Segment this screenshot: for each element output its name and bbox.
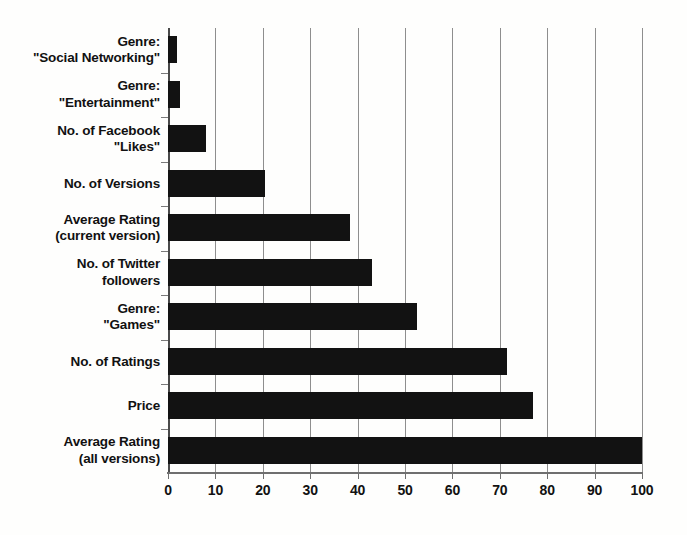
plot-area [168, 28, 642, 473]
x-axis-tick-mark [595, 472, 596, 479]
y-label-line-1: Genre: [0, 34, 160, 51]
y-axis-tick [161, 206, 168, 207]
x-axis-tick-mark [452, 472, 453, 479]
y-label-line-2: "Likes" [0, 139, 160, 156]
y-axis-category-label: No. of Twitterfollowers [0, 256, 160, 289]
y-label-line-1: No. of Facebook [0, 123, 160, 140]
x-axis-tick-mark [500, 472, 501, 479]
bar [168, 214, 350, 241]
y-axis-category-label: Genre:"Games" [0, 301, 160, 334]
y-label-line-1: No. of Twitter [0, 256, 160, 273]
y-axis-category-label: Genre:"Social Networking" [0, 34, 160, 67]
y-axis-tick [161, 384, 168, 385]
bar-row [168, 340, 642, 385]
y-axis-category-label: Average Rating(all versions) [0, 434, 160, 467]
x-axis-tick-mark [215, 472, 216, 479]
bar-row [168, 117, 642, 162]
x-axis-labels: 0102030405060708090100 [0, 482, 687, 512]
bar [168, 259, 372, 286]
y-axis-tick [161, 162, 168, 163]
y-axis-category-label: No. of Ratings [0, 354, 160, 371]
bar [168, 303, 417, 330]
y-axis-labels: Genre:"Social Networking"Genre:"Entertai… [0, 28, 160, 473]
bar-row [168, 162, 642, 207]
bar-chart: Genre:"Social Networking"Genre:"Entertai… [0, 0, 687, 535]
y-label-line-2: "Entertainment" [0, 95, 160, 112]
gridline-100 [642, 28, 643, 473]
y-label-line-2: (current version) [0, 228, 160, 245]
bar [168, 170, 265, 197]
bar-row [168, 206, 642, 251]
x-axis-tick-mark [405, 472, 406, 479]
y-label-line-1: Average Rating [0, 212, 160, 229]
y-label-line-1: Genre: [0, 78, 160, 95]
bar [168, 392, 533, 419]
y-label-line-1: Price [0, 398, 160, 415]
bar-row [168, 251, 642, 296]
x-axis-tick-mark [358, 472, 359, 479]
bar-row [168, 28, 642, 73]
y-axis-tick [161, 295, 168, 296]
y-label-line-1: Average Rating [0, 434, 160, 451]
y-label-line-2: followers [0, 273, 160, 290]
y-axis-tick [161, 251, 168, 252]
y-label-line-1: No. of Ratings [0, 354, 160, 371]
bar [168, 437, 642, 464]
x-axis-tick-mark [642, 472, 643, 479]
bar [168, 36, 177, 63]
y-axis-category-label: No. of Versions [0, 176, 160, 193]
bar-row [168, 73, 642, 118]
y-axis-category-label: No. of Facebook"Likes" [0, 123, 160, 156]
y-label-line-1: Genre: [0, 301, 160, 318]
y-axis-category-label: Price [0, 398, 160, 415]
x-axis-tick-mark [263, 472, 264, 479]
y-axis-category-label: Genre:"Entertainment" [0, 78, 160, 111]
y-axis-tick [161, 429, 168, 430]
bar-row [168, 295, 642, 340]
bar-row [168, 429, 642, 474]
y-axis-tick [161, 73, 168, 74]
y-label-line-2: "Social Networking" [0, 50, 160, 67]
bar [168, 81, 180, 108]
x-axis-tick-mark [547, 472, 548, 479]
y-axis-tick [161, 117, 168, 118]
y-label-line-2: (all versions) [0, 451, 160, 468]
y-axis-category-label: Average Rating(current version) [0, 212, 160, 245]
x-axis-tick-mark [168, 472, 169, 479]
bar [168, 348, 507, 375]
x-axis-tick-mark [310, 472, 311, 479]
bar [168, 125, 206, 152]
y-axis-tick [161, 340, 168, 341]
bar-row [168, 384, 642, 429]
x-axis-tick-label: 100 [612, 482, 672, 498]
y-label-line-1: No. of Versions [0, 176, 160, 193]
y-label-line-2: "Games" [0, 317, 160, 334]
